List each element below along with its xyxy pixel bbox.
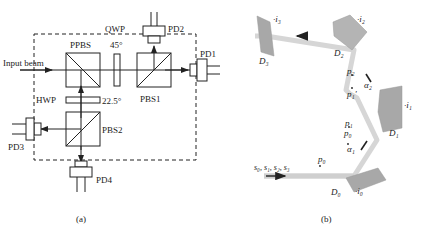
mirror-d0 bbox=[346, 168, 386, 192]
hwp-plate bbox=[66, 97, 100, 103]
d3-label: D₃ bbox=[258, 56, 269, 66]
p1-prime-label: p₁′ bbox=[346, 89, 358, 99]
d1-label: D₁ bbox=[388, 128, 399, 138]
pd4-detector bbox=[75, 161, 87, 167]
p0-label-upper: p₀ bbox=[343, 128, 352, 138]
i0-label: ·i₀ bbox=[355, 186, 363, 196]
pd4-label: PD4 bbox=[96, 175, 113, 185]
i3-label: ·i₃ bbox=[273, 14, 281, 24]
pbs2-label: PBS2 bbox=[102, 125, 123, 135]
d2-label: D₂ bbox=[333, 48, 344, 58]
i1-label: ·i₁ bbox=[404, 100, 412, 110]
hwp-angle-label: 22.5° bbox=[102, 96, 122, 106]
hwp-label: HWP bbox=[36, 95, 56, 105]
pd2-detector bbox=[143, 26, 165, 36]
ppbs-label: PPBS bbox=[70, 40, 91, 50]
alpha1-label: α₁ bbox=[347, 144, 355, 154]
pd3-label: PD3 bbox=[8, 142, 25, 152]
figure-canvas: Input beam PPBS QWP 45° PBS1 HWP 22.5° P… bbox=[0, 0, 424, 239]
beam-path bbox=[255, 36, 377, 176]
i2-label: ·i₂ bbox=[357, 14, 365, 24]
pd1-detector bbox=[190, 64, 197, 76]
p2-label: p₂ bbox=[346, 66, 355, 76]
alpha2-label: α₂ bbox=[364, 80, 372, 90]
caption-a: (a) bbox=[76, 214, 86, 224]
p1-label: p₁ bbox=[344, 118, 353, 128]
pd1-label: PD1 bbox=[200, 49, 216, 59]
caption-b: (b) bbox=[321, 214, 332, 224]
input-beam-label: Input beam bbox=[3, 58, 44, 68]
qwp-label: QWP bbox=[105, 24, 125, 34]
mirror-d1 bbox=[378, 86, 402, 132]
p0-label-lower: p₀ bbox=[317, 154, 326, 164]
s-list-label: s₀, s₁, s₂, s₃ bbox=[254, 163, 290, 172]
d0-label: D₀ bbox=[330, 187, 341, 197]
mirror-d3 bbox=[257, 16, 274, 56]
pbs1-label: PBS1 bbox=[140, 94, 161, 104]
pd3-detector bbox=[34, 123, 41, 135]
qwp-angle-label: 45° bbox=[110, 40, 123, 50]
pd2-label: PD2 bbox=[168, 24, 184, 34]
